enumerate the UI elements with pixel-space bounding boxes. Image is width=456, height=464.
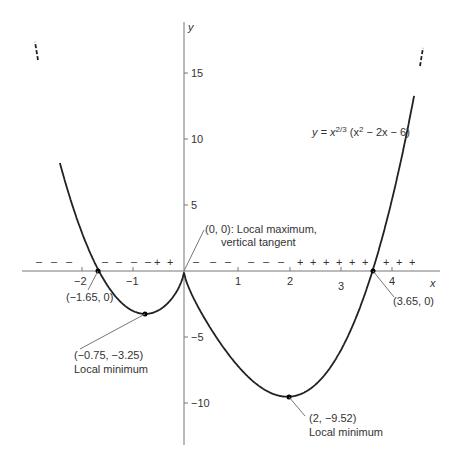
y-tick-label: 5	[191, 199, 197, 211]
point-label: (−1.65, 0)	[66, 291, 113, 303]
function-graph: y x 15 10 5 −5 −10 −2 −1 1 2 3 4 ––– –––…	[0, 0, 456, 464]
svg-text:–: –	[210, 255, 217, 267]
point-note: vertical tangent	[221, 236, 296, 248]
x-tick-label: 2	[287, 275, 293, 287]
svg-text:–: –	[263, 255, 270, 267]
svg-text:–: –	[102, 255, 109, 267]
svg-text:+: +	[409, 256, 415, 268]
x-axis-label: x	[429, 277, 436, 289]
svg-text:+: +	[349, 256, 355, 268]
y-tick-label: −10	[191, 397, 210, 409]
point-label: (0, 0): Local maximum,	[205, 223, 317, 235]
svg-text:+: +	[383, 256, 389, 268]
svg-text:–: –	[131, 255, 138, 267]
leader-line	[80, 314, 145, 349]
y-tick-label: −5	[191, 331, 204, 343]
x-tick-label: −1	[126, 275, 139, 287]
svg-text:–: –	[116, 255, 123, 267]
svg-text:+: +	[323, 256, 329, 268]
function-label: y = x2/3 (x2 − 2x − 6)	[311, 125, 410, 138]
y-tick-label: 15	[191, 67, 203, 79]
point-note: Local minimum	[309, 426, 383, 438]
curve-continuation-left	[35, 42, 38, 60]
svg-text:–: –	[225, 255, 232, 267]
x-tick-label: −2	[74, 275, 87, 287]
svg-text:+: +	[167, 256, 173, 268]
x-tick-label: 1	[235, 275, 241, 287]
x-tick-label: 3	[338, 280, 344, 292]
svg-text:–: –	[193, 255, 200, 267]
svg-text:–: –	[278, 255, 285, 267]
svg-text:+: +	[396, 256, 402, 268]
point-label: (2, −9.52)	[309, 412, 356, 424]
point-note: Local minimum	[74, 363, 148, 375]
svg-text:+: +	[336, 256, 342, 268]
svg-text:+: +	[310, 256, 316, 268]
point-label: (3.65, 0)	[393, 295, 434, 307]
svg-text:–: –	[36, 255, 43, 267]
svg-text:–: –	[51, 255, 58, 267]
x-tick-label: 4	[389, 275, 395, 287]
curve-continuation-right	[420, 48, 423, 66]
y-tick-label: 10	[191, 133, 203, 145]
svg-text:–: –	[145, 255, 152, 267]
svg-text:+: +	[297, 256, 303, 268]
leader-line	[289, 397, 305, 416]
svg-text:–: –	[248, 255, 255, 267]
point-label: (−0.75, −3.25)	[74, 349, 143, 361]
y-ticks: 15 10 5 −5 −10	[184, 67, 210, 409]
leader-line	[88, 271, 98, 290]
svg-text:+: +	[362, 256, 368, 268]
svg-text:+: +	[154, 256, 160, 268]
y-axis-label: y	[187, 21, 195, 33]
svg-text:–: –	[66, 255, 73, 267]
